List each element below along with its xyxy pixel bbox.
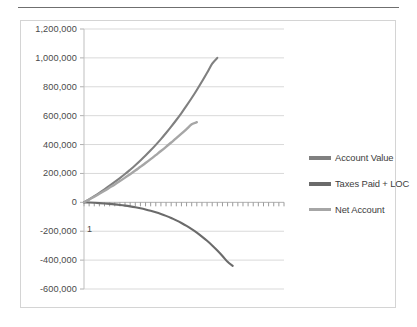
series-line (84, 122, 197, 202)
legend-label-net-account: Net Account (335, 204, 384, 215)
y-axis-tick-label: -600,000 (40, 284, 77, 294)
chart-legend: Account Value Taxes Paid + LOC Net Accou… (309, 147, 409, 225)
y-axis-tick-label: 0 (72, 197, 77, 207)
series-lines (84, 58, 233, 266)
series-line (84, 58, 217, 202)
x-axis-tick-label: 1 (87, 224, 92, 234)
legend-item-net-account: Net Account (309, 199, 409, 220)
header-divider (18, 7, 399, 8)
legend-label-taxes-paid-loc: Taxes Paid + LOC (335, 178, 409, 189)
y-axis-tick-label: -200,000 (40, 226, 77, 236)
chart-frame: 1,200,0001,000,000800,000600,000400,0002… (20, 20, 396, 308)
y-axis-tick-label: 200,000 (43, 168, 77, 178)
y-axis-tick-label: 1,200,000 (35, 24, 77, 34)
legend-swatch-taxes-paid-loc (309, 182, 331, 186)
series-line (84, 202, 233, 266)
y-axis-tick-label: 1,000,000 (35, 53, 77, 63)
legend-swatch-net-account (309, 208, 331, 211)
x-axis-ticks (80, 29, 284, 289)
legend-item-taxes-paid-loc: Taxes Paid + LOC (309, 173, 409, 194)
y-axis-tick-label: 800,000 (43, 82, 77, 92)
legend-swatch-account-value (309, 156, 331, 160)
legend-item-account-value: Account Value (309, 147, 409, 168)
y-axis-tick-label: -400,000 (40, 255, 77, 265)
plot-area: 1,200,0001,000,000800,000600,000400,0002… (21, 21, 395, 307)
y-axis-tick-label: 600,000 (43, 111, 77, 121)
page-root: 1,200,0001,000,000800,000600,000400,0002… (0, 0, 417, 327)
y-axis-tick-label: 400,000 (43, 140, 77, 150)
gridlines (84, 29, 284, 289)
legend-label-account-value: Account Value (335, 152, 393, 163)
